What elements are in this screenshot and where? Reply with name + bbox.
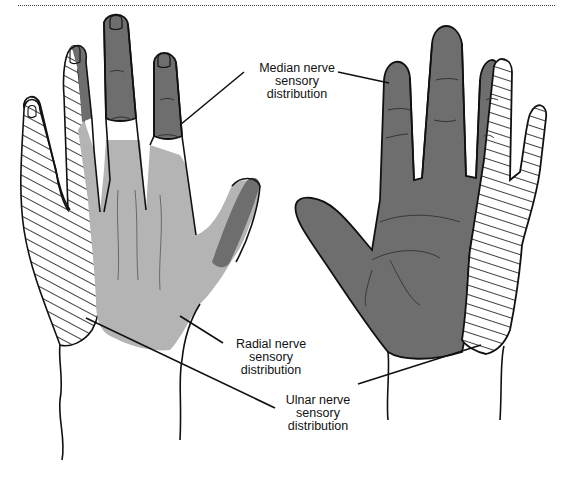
median-nerve-label: Median nerve sensory distribution xyxy=(247,62,347,101)
dorsal-hand xyxy=(21,15,260,460)
radial-nerve-label: Radial nerve sensory distribution xyxy=(221,338,321,377)
median-leader-left xyxy=(180,72,244,125)
ulnar-nerve-label: Ulnar nerve sensory distribution xyxy=(273,394,363,433)
radial-leader xyxy=(180,316,223,343)
